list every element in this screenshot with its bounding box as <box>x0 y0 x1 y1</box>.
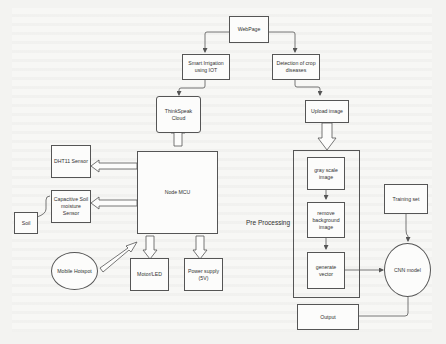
upload-image-node: Upload image <box>305 100 349 123</box>
cnn-model-node: CNN model <box>384 243 431 297</box>
output-label: Output <box>320 314 336 321</box>
pre-processing-label: Pre Processing <box>246 219 290 226</box>
upload-image-label: Upload image <box>311 108 343 115</box>
output-node: Output <box>297 304 359 330</box>
soil-label: Soil <box>22 220 31 227</box>
node-mcu-label: Node MCU <box>165 189 191 196</box>
dht11-sensor-label: DHT11 Sensor <box>54 158 88 165</box>
power-supply-node: Power supply (5V) <box>184 258 223 291</box>
smart-irrigation-node: Smart Irrigation using IOT <box>182 54 230 80</box>
dht11-sensor-node: DHT11 Sensor <box>51 145 91 178</box>
remove-background-node: remove background image <box>307 202 345 238</box>
thingspeak-cloud-node: ThinkSpeak Cloud <box>156 96 201 133</box>
power-supply-label: Power supply (5V) <box>186 268 221 282</box>
crop-disease-node: Detection of crop diseases <box>272 54 320 80</box>
remove-background-label: remove background image <box>309 210 343 231</box>
crop-disease-label: Detection of crop diseases <box>274 60 318 74</box>
soil-moisture-sensor-node: Capacitive Soil moisture Sensor <box>51 190 91 223</box>
mobile-hotspot-node: Mobile Hotspot <box>51 252 98 290</box>
cnn-model-label: CNN model <box>394 267 421 274</box>
generate-vector-node: generate vector <box>307 252 345 289</box>
motor-led-node: Motor/LED <box>130 258 169 291</box>
generate-vector-label: generate vector <box>309 264 343 278</box>
gray-scale-label: gray scale image <box>309 167 343 181</box>
mobile-hotspot-label: Mobile Hotspot <box>57 268 92 275</box>
soil-node: Soil <box>14 212 38 234</box>
node-mcu-node: Node MCU <box>137 151 218 234</box>
webpage-label: WebPage <box>238 26 261 33</box>
webpage-node: WebPage <box>229 16 269 43</box>
smart-irrigation-label: Smart Irrigation using IOT <box>184 60 228 74</box>
gray-scale-node: gray scale image <box>307 157 345 190</box>
training-set-node: Training set <box>384 184 428 214</box>
training-set-label: Training set <box>393 196 420 203</box>
soil-moisture-sensor-label: Capacitive Soil moisture Sensor <box>53 196 89 217</box>
motor-led-label: Motor/LED <box>137 271 162 278</box>
thingspeak-cloud-label: ThinkSpeak Cloud <box>158 108 199 122</box>
